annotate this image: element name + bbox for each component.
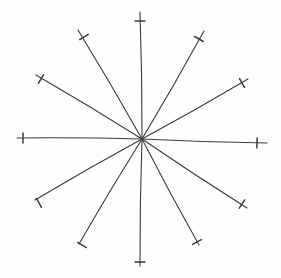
ray-line bbox=[142, 139, 267, 143]
ray-line bbox=[140, 12, 142, 139]
ray-line bbox=[140, 139, 142, 266]
ray-upper-right-shallow bbox=[142, 79, 248, 139]
ray-line bbox=[142, 31, 204, 139]
starburst-diagram bbox=[0, 0, 281, 278]
ray-lower-right-shallow bbox=[142, 139, 247, 208]
ray-line bbox=[79, 139, 142, 244]
ray-right bbox=[142, 138, 267, 148]
ray-left bbox=[17, 133, 142, 143]
ray-upper-left-shallow bbox=[36, 75, 142, 139]
ray-line bbox=[17, 138, 142, 139]
tick-mark bbox=[78, 242, 87, 247]
ray-line bbox=[78, 30, 142, 139]
ray-line bbox=[142, 79, 248, 139]
ray-line bbox=[142, 139, 247, 208]
sketch-canvas bbox=[0, 0, 281, 278]
ray-upper-right-steep bbox=[142, 31, 204, 139]
ray-lower-left-steep bbox=[78, 139, 142, 248]
tick-mark bbox=[37, 199, 42, 208]
rays-group bbox=[17, 12, 267, 266]
ray-upper-left-steep bbox=[78, 30, 142, 139]
ray-line bbox=[142, 139, 199, 245]
ray-top bbox=[135, 12, 145, 139]
ray-lower-left-shallow bbox=[35, 139, 142, 207]
ray-line bbox=[35, 139, 142, 200]
ray-bottom bbox=[135, 139, 145, 266]
ray-line bbox=[36, 75, 142, 139]
ray-lower-right-steep bbox=[142, 139, 201, 245]
